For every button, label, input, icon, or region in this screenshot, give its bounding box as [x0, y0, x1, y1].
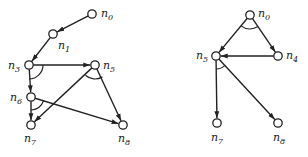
left-graph-edge-n0-n1 [57, 16, 88, 32]
right-graph-and-arc-n5 [216, 66, 225, 69]
right-graph-node-n5 [212, 52, 220, 60]
left-graph-edge-n5-n7 [34, 68, 92, 122]
right-graph-node-n7 [213, 119, 221, 127]
left-graph-node-n0 [88, 10, 96, 18]
right-graph-label-n8: n8 [273, 131, 285, 146]
left-graph-node-n1 [49, 30, 57, 38]
right-graph-node-n8 [274, 119, 282, 127]
left-graph-label-n1: n1 [58, 39, 70, 54]
left-graph-edge-n3-n6 [29, 69, 30, 92]
right-graph-edge-n0-n4 [252, 18, 275, 52]
right-graph-label-n0: n0 [258, 7, 270, 22]
right-graph-node-n0 [246, 11, 254, 19]
left-graph-label-n8: n8 [118, 132, 130, 147]
left-graph-node-n6 [27, 93, 35, 101]
left-graph-node-n3 [25, 61, 33, 69]
right-graph-label-n4: n4 [286, 49, 298, 64]
left-graph-edge-n1-n3 [32, 37, 51, 61]
and-or-graph-diagram: n0n1n3n5n6n7n8n0n4n5n7n8 [0, 0, 308, 157]
left-graph-node-n8 [119, 121, 127, 129]
right-graph-label-n7: n7 [211, 131, 224, 146]
edges [29, 16, 275, 124]
right-graph-node-n4 [274, 52, 282, 60]
right-graph-edge-n0-n5 [219, 18, 247, 52]
right-graph-and-arc-n0 [241, 26, 258, 29]
left-graph-label-n6: n6 [10, 91, 22, 106]
left-graph-label-n5: n5 [103, 59, 115, 74]
left-graph-label-n0: n0 [101, 7, 113, 22]
left-graph-label-n3: n3 [8, 59, 20, 74]
left-graph-edge-n6-n8 [35, 98, 118, 123]
left-graph-node-n7 [27, 121, 35, 129]
left-graph-edge-n5-n8 [97, 69, 121, 121]
left-graph-and-arc-n6 [31, 101, 43, 110]
right-graph-edge-n5-n8 [219, 59, 275, 119]
left-graph-node-n5 [91, 61, 99, 69]
left-graph-label-n7: n7 [24, 132, 37, 147]
right-graph-label-n5: n5 [196, 49, 208, 64]
